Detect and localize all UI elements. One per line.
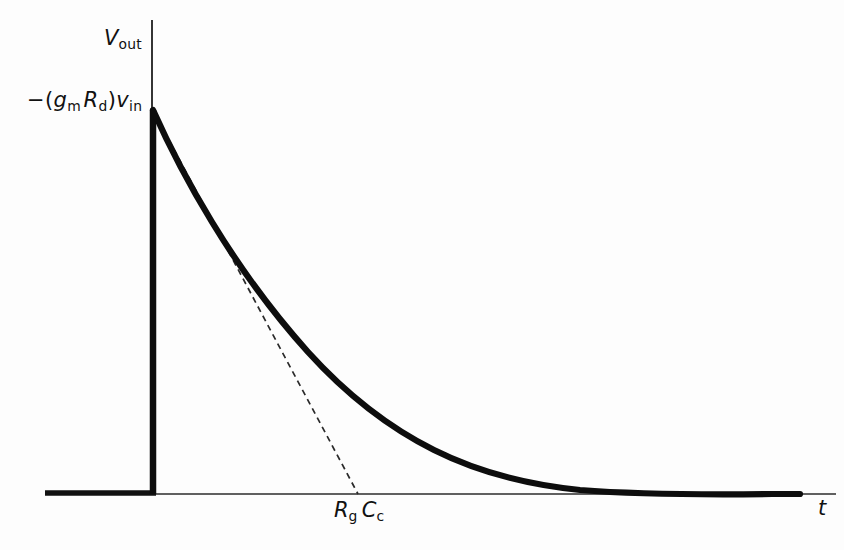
cc-symbol: C: [358, 498, 377, 522]
y-axis-symbol: V: [104, 26, 118, 50]
vin-subscript: in: [129, 98, 142, 114]
plot-svg: [0, 0, 844, 550]
y-axis-subscript: out: [118, 36, 142, 52]
minus-sign: −(: [27, 88, 54, 112]
figure-canvas: Vout −(gm Rd)vin Rg Cc t: [0, 0, 844, 550]
cc-subscript: c: [377, 508, 385, 524]
vin-symbol: v: [116, 88, 129, 112]
x-axis-label: t: [818, 498, 826, 519]
rg-symbol: R: [334, 498, 349, 522]
exponential-decay-curve: [153, 110, 800, 494]
gm-symbol: g: [54, 88, 68, 112]
close-paren: ): [108, 88, 117, 112]
rd-symbol: R: [81, 88, 98, 112]
time-constant-label: Rg Cc: [334, 500, 384, 524]
y-axis-label: Vout: [104, 28, 142, 52]
peak-amplitude-label: −(gm Rd)vin: [27, 90, 142, 114]
rd-subscript: d: [99, 98, 108, 114]
rg-subscript: g: [349, 508, 358, 524]
x-axis-symbol: t: [818, 496, 826, 520]
gm-subscript: m: [67, 98, 81, 114]
